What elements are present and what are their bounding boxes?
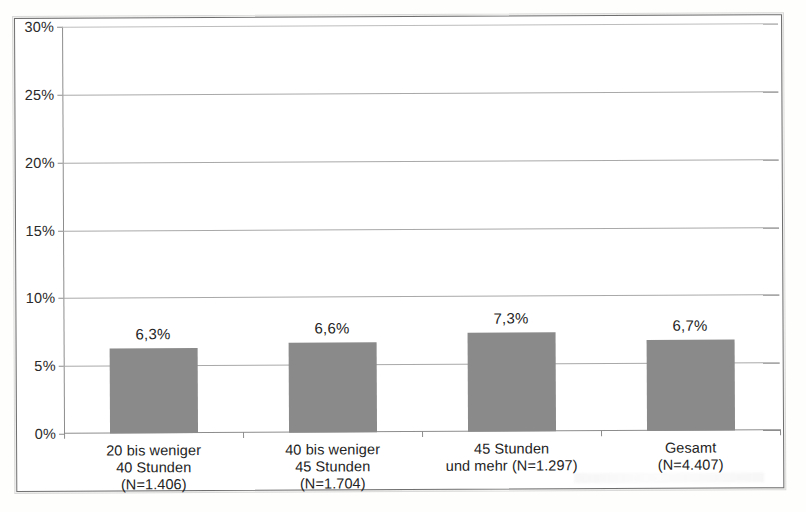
bar[interactable] — [646, 340, 734, 431]
y-axis-label: 15% — [25, 222, 55, 238]
scanned-page: 0%5%10%15%20%25%30%6,3%6,6%7,3%6,7% 20 b… — [0, 0, 806, 512]
y-axis-label: 5% — [34, 358, 55, 374]
plot-area: 0%5%10%15%20%25%30%6,3%6,6%7,3%6,7% — [62, 23, 780, 433]
bar-value-label: 6,6% — [314, 320, 349, 337]
x-axis-tick — [601, 430, 602, 436]
gridline — [63, 227, 779, 231]
gridline — [63, 295, 779, 299]
y-axis-tick — [58, 230, 63, 231]
x-axis-tick — [243, 432, 244, 438]
bar-value-label: 6,7% — [672, 317, 707, 334]
bar-value-label: 6,3% — [136, 325, 171, 342]
y-axis-tick — [57, 95, 62, 96]
bar[interactable] — [109, 348, 197, 434]
bar-value-label: 7,3% — [493, 309, 528, 326]
y-axis-label: 30% — [24, 19, 54, 35]
y-axis-label: 10% — [26, 290, 56, 306]
gridline — [62, 91, 778, 95]
y-axis-label: 20% — [25, 154, 55, 170]
gridline — [62, 23, 778, 27]
x-axis-tick — [422, 431, 423, 437]
bar[interactable] — [467, 332, 555, 431]
x-axis-tick — [780, 429, 781, 435]
y-axis-label: 25% — [25, 87, 55, 103]
y-axis-tick — [57, 27, 62, 28]
gridline — [63, 159, 779, 163]
y-axis-tick — [59, 366, 64, 367]
y-axis-tick — [58, 162, 63, 163]
x-axis-category-label: Gesamt (N=4.407) — [581, 439, 800, 474]
bar[interactable] — [288, 343, 376, 433]
y-axis-label: 0% — [35, 426, 56, 442]
bar-chart: 0%5%10%15%20%25%30%6,3%6,6%7,3%6,7% 20 b… — [14, 14, 782, 490]
y-axis-tick — [58, 298, 63, 299]
x-axis-tick — [64, 433, 65, 439]
